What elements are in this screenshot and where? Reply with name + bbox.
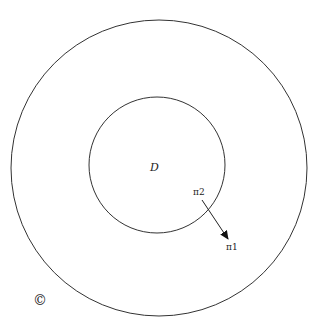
outer-circle <box>11 20 307 316</box>
region-label-d: D <box>149 161 159 174</box>
copyright-icon: © <box>33 292 47 308</box>
diagram-canvas: D π2 π1 © <box>0 0 313 329</box>
point-label-pi2: π2 <box>193 187 205 197</box>
point-label-pi1: π1 <box>226 242 238 252</box>
arrow-pi2-to-pi1 <box>202 200 228 239</box>
